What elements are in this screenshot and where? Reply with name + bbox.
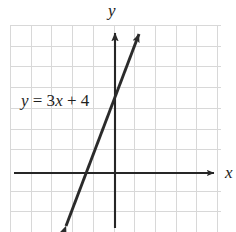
equation-constant: 4: [81, 91, 90, 110]
equation-coefficient: 3: [47, 91, 56, 110]
y-axis-label: y: [108, 2, 116, 19]
graph-figure: y x y=3x+4: [0, 0, 236, 232]
equation-annotation: y=3x+4: [21, 91, 90, 111]
equation-equals: =: [33, 91, 43, 110]
equation-plus: +: [67, 91, 77, 110]
x-axis-label: x: [225, 164, 233, 181]
equation-lhs: y: [21, 91, 29, 110]
coordinate-plane: [0, 0, 236, 232]
equation-line-y-3x-plus-4: [66, 34, 139, 226]
equation-variable: x: [55, 91, 63, 110]
